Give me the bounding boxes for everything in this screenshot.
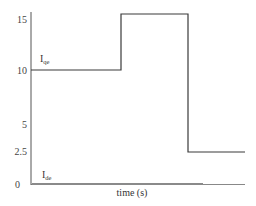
y-tick-0: 0 bbox=[15, 179, 20, 190]
y-tick-10: 10 bbox=[17, 65, 27, 76]
y-tick-15: 15 bbox=[17, 14, 27, 25]
series-iqe-line bbox=[31, 14, 245, 152]
x-axis-label: time (s) bbox=[117, 187, 148, 199]
y-tick-5: 5 bbox=[22, 119, 27, 130]
y-tick-2-5: 2.5 bbox=[15, 146, 28, 157]
label-iqe: Iqe bbox=[40, 53, 50, 65]
step-response-chart: 0 2.5 5 10 15 Iqe Ide time (s) bbox=[0, 0, 256, 206]
label-ide: Ide bbox=[42, 169, 52, 181]
